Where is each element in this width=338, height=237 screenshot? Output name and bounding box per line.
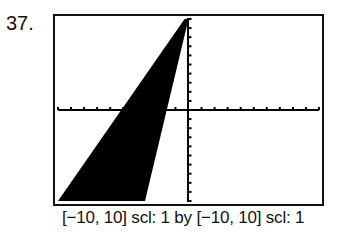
problem-number: 37. [6,12,34,35]
calculator-screen [53,14,324,206]
window-caption: [−10, 10] scl: 1 by [−10, 10] scl: 1 [62,208,304,228]
graph-plot [55,16,322,204]
